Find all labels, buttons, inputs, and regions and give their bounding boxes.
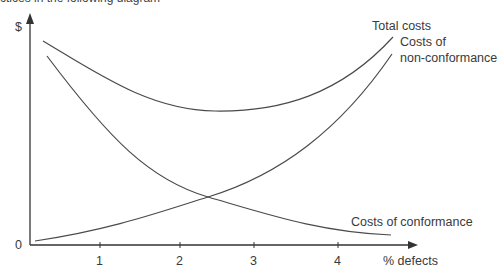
x-axis-label: % defects bbox=[383, 254, 438, 268]
origin-label: 0 bbox=[15, 238, 22, 252]
total-costs-curve bbox=[43, 37, 393, 111]
conformance-label: Costs of conformance bbox=[351, 215, 473, 229]
cost-of-quality-chart: 1 2 3 4 % defects $ 0 Total costs Costs … bbox=[0, 0, 503, 279]
total-costs-label: Total costs bbox=[372, 19, 431, 33]
y-axis-arrow-icon bbox=[26, 13, 34, 24]
conformance-curve bbox=[47, 56, 391, 235]
non-conformance-label-line2: non-conformance bbox=[400, 51, 497, 65]
x-tick-label-2: 2 bbox=[176, 254, 183, 268]
x-tick-label-4: 4 bbox=[334, 254, 341, 268]
non-conformance-label-line1: Costs of bbox=[400, 35, 446, 49]
y-axis-label: $ bbox=[15, 20, 22, 34]
x-tick-label-1: 1 bbox=[96, 254, 103, 268]
x-axis-arrow-icon bbox=[408, 241, 418, 249]
x-tick-label-3: 3 bbox=[250, 254, 257, 268]
